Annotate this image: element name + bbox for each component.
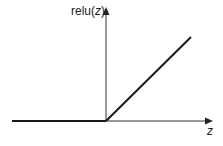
y-axis-label: relu(z) bbox=[71, 4, 105, 18]
x-axis-label: z bbox=[206, 124, 213, 138]
relu-line-positive bbox=[106, 37, 191, 121]
relu-chart: relu(z) z bbox=[0, 0, 223, 146]
